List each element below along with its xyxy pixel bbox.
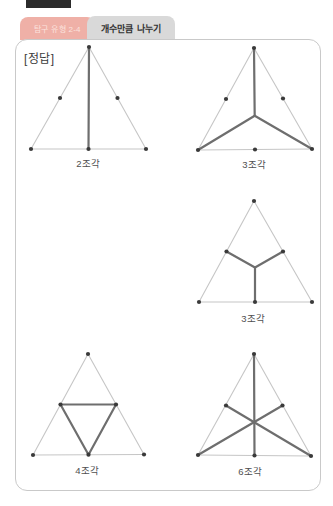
vertex-dot <box>252 453 256 457</box>
vertex-dot <box>144 147 148 151</box>
triangle-figure-3 <box>197 199 314 304</box>
vertex-dot <box>280 403 284 407</box>
vertex-dot <box>31 453 35 457</box>
vertex-dot <box>86 147 90 151</box>
vertex-dot <box>197 300 201 304</box>
vertex-dot <box>58 402 62 406</box>
vertex-dot <box>87 45 91 49</box>
triangle-figure-2 <box>196 46 314 152</box>
vertex-dot <box>252 46 256 50</box>
vertex-dot <box>310 147 314 151</box>
triangle-figure-1 <box>29 45 148 151</box>
vertex-dot <box>58 96 62 100</box>
vertex-dot <box>309 454 313 458</box>
vertex-dot <box>281 249 285 253</box>
vertex-dot <box>252 199 256 203</box>
vertex-dot <box>142 452 146 456</box>
vertex-dot <box>252 352 256 356</box>
figure-caption-3: 3조각 <box>241 311 264 325</box>
workbook-answer-page: 탐구 유형 2-4 개수만큼 나누기 [정답] 2조각3조각3조각4조각6조각 <box>0 0 333 506</box>
triangle-figures-canvas <box>0 0 333 506</box>
figure-caption-2: 3조각 <box>242 157 265 171</box>
vertex-dot <box>310 300 314 304</box>
vertex-dot <box>253 147 257 151</box>
vertex-dot <box>224 403 228 407</box>
vertex-dot <box>114 402 118 406</box>
vertex-dot <box>196 148 200 152</box>
vertex-dot <box>86 352 90 356</box>
figure-caption-5: 6조각 <box>238 464 261 478</box>
vertex-dot <box>281 96 285 100</box>
vertex-dot <box>86 453 90 457</box>
vertex-dot <box>224 97 228 101</box>
vertex-dot <box>253 300 257 304</box>
figure-caption-1: 2조각 <box>76 156 99 170</box>
triangle-figure-4 <box>31 352 146 457</box>
vertex-dot <box>115 96 119 100</box>
vertex-dot <box>29 147 33 151</box>
vertex-dot <box>224 249 228 253</box>
figure-caption-4: 4조각 <box>75 463 98 477</box>
vertex-dot <box>196 453 200 457</box>
triangle-figure-5 <box>196 352 313 458</box>
